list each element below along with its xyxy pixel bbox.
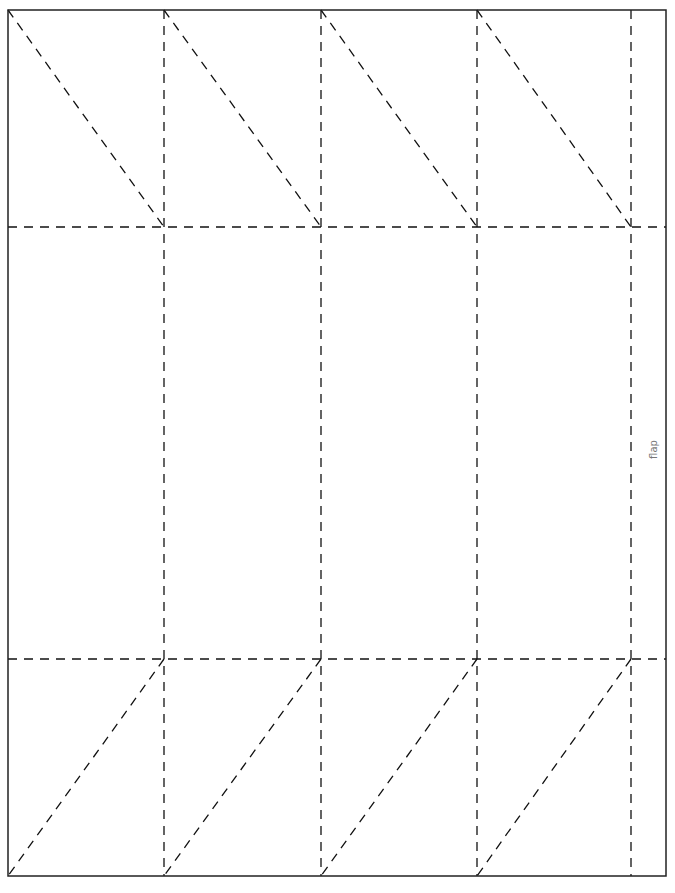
bottom-diagonal-fold xyxy=(321,659,477,876)
bottom-diagonal-fold xyxy=(164,659,321,876)
bottom-diagonal-fold xyxy=(8,659,164,876)
bottom-diagonal-fold xyxy=(477,659,631,876)
top-diagonal-fold xyxy=(164,10,321,227)
flap-label: flap xyxy=(648,440,659,459)
fold-lines xyxy=(8,10,666,876)
cut-outline xyxy=(8,10,666,876)
top-diagonal-fold xyxy=(477,10,631,227)
top-diagonal-fold xyxy=(321,10,477,227)
top-diagonal-fold xyxy=(8,10,164,227)
box-net-diagram xyxy=(0,0,675,893)
